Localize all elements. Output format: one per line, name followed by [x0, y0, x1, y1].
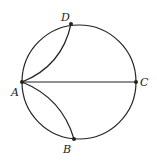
point-c — [134, 80, 138, 84]
label-d: D — [60, 11, 70, 24]
geometry-diagram: A B C D — [0, 0, 157, 161]
point-a — [20, 80, 24, 84]
label-b: B — [62, 143, 71, 156]
label-c: C — [140, 76, 149, 89]
point-b — [72, 137, 76, 141]
label-a: A — [10, 86, 19, 99]
